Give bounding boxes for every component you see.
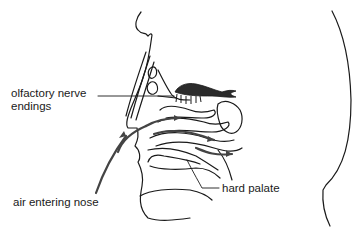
hard-palate-label: hard palate: [222, 182, 280, 195]
olfactory-bulb-icon: [175, 83, 236, 104]
air-entering-nose-label: air entering nose: [13, 196, 99, 209]
olfactory-label-line1: olfactory nerve: [11, 87, 86, 100]
ethmoid-sinus: [147, 82, 157, 94]
olfactory-label-line2: endings: [11, 100, 51, 113]
airflow-arrow-4: [154, 131, 214, 140]
superior-concha: [160, 106, 215, 118]
nasal-anatomy-diagram: olfactory nerve endings hard palate air …: [0, 0, 362, 236]
airflow-arrow-2: [118, 126, 146, 152]
hard-palate-leader: [187, 160, 219, 188]
back-of-head: [323, 11, 351, 226]
